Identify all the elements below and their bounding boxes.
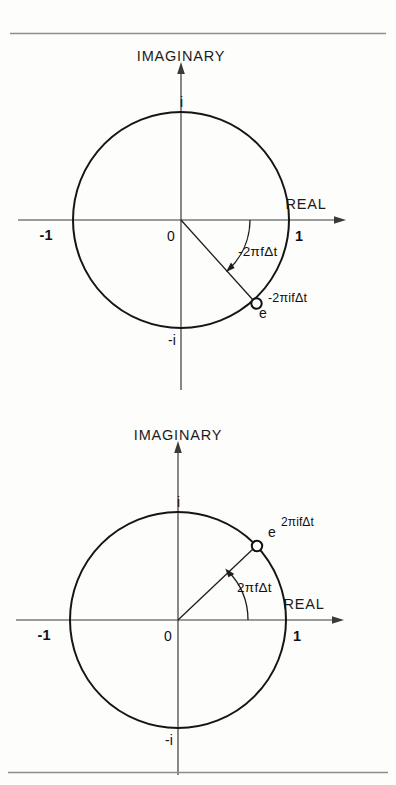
panel-positive-exponent: IMAGINARY REAL i -i -1 1 0 2πfΔt <box>16 427 344 775</box>
point-expression-exponent: -2πifΔt <box>268 291 308 305</box>
angle-arc <box>227 571 248 621</box>
tick-label-minus-one: -1 <box>40 227 53 243</box>
tick-label-minus-i-bottom: -i <box>165 732 173 748</box>
imaginary-axis-label: IMAGINARY <box>137 48 225 64</box>
tick-label-one: 1 <box>293 628 301 644</box>
angle-arc-arrowhead <box>226 262 235 272</box>
tick-label-one: 1 <box>295 228 303 244</box>
tick-label-minus-one: -1 <box>38 627 51 643</box>
real-axis-label: REAL <box>283 596 324 612</box>
tick-label-i-top: i <box>180 94 183 110</box>
point-marker <box>252 541 262 551</box>
radius-vector <box>181 220 254 301</box>
complex-plane-figure: IMAGINARY REAL i -i -1 1 0 -2πfΔt <box>0 0 396 785</box>
tick-label-origin: 0 <box>164 628 172 644</box>
tick-label-i-top: i <box>177 494 180 510</box>
point-expression-exponent: 2πifΔt <box>281 515 314 529</box>
angle-label: 2πfΔt <box>237 580 272 595</box>
real-axis-arrowhead <box>332 616 344 624</box>
imaginary-axis-label: IMAGINARY <box>134 427 222 443</box>
tick-label-minus-i-bottom: -i <box>168 332 176 348</box>
point-expression-base: e <box>268 524 276 540</box>
real-axis-arrowhead <box>334 216 346 224</box>
point-expression-base: e <box>259 305 267 321</box>
tick-label-origin: 0 <box>167 228 175 244</box>
real-axis-label: REAL <box>285 196 326 212</box>
panel-negative-exponent: IMAGINARY REAL i -i -1 1 0 -2πfΔt <box>18 48 346 390</box>
figure-container: IMAGINARY REAL i -i -1 1 0 -2πfΔt <box>0 0 396 785</box>
angle-label: -2πfΔt <box>238 244 278 259</box>
